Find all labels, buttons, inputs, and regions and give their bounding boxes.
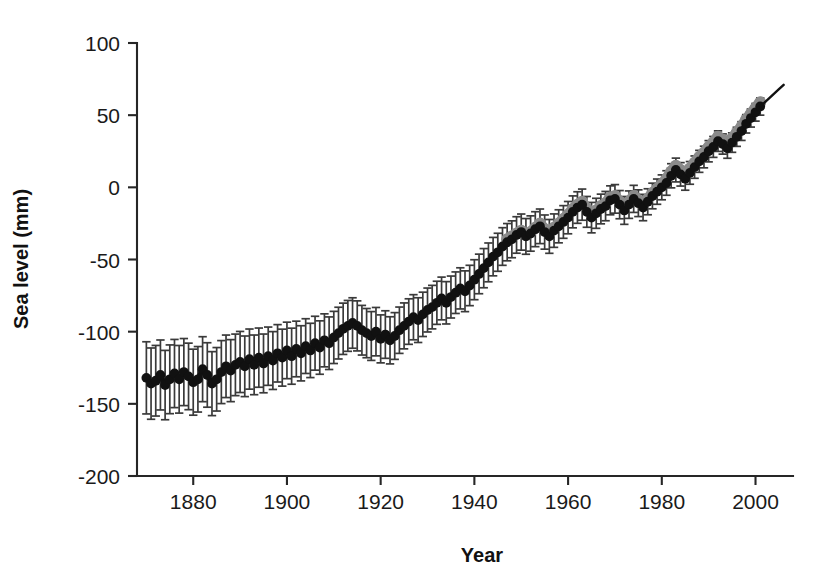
- figure-container: 1880190019201940196019802000 -200-150-10…: [0, 0, 831, 588]
- data-point-tide-gauge: [202, 370, 212, 380]
- y-tick-label-100: 100: [85, 32, 120, 55]
- y-tick-label-50: 50: [97, 104, 120, 127]
- y-tick-label--200: -200: [78, 465, 120, 488]
- y-axis-title: Sea level (mm): [10, 189, 32, 329]
- x-tick-label-2000: 2000: [732, 490, 779, 513]
- x-tick-label-1960: 1960: [545, 490, 592, 513]
- x-tick-label-1920: 1920: [357, 490, 404, 513]
- x-tick-label-1900: 1900: [264, 490, 311, 513]
- x-tick-label-1940: 1940: [451, 490, 498, 513]
- y-tick-label--100: -100: [78, 321, 120, 344]
- data-point-tide-gauge: [156, 370, 166, 380]
- y-tick-label--150: -150: [78, 393, 120, 416]
- x-tick-label-1880: 1880: [170, 490, 217, 513]
- y-tick-label-0: 0: [108, 176, 120, 199]
- data-point-tide-gauge: [193, 374, 203, 384]
- x-axis-title: Year: [461, 544, 503, 566]
- x-tick-label-1980: 1980: [638, 490, 685, 513]
- y-tick-label--50: -50: [90, 249, 120, 272]
- sea-level-chart: 1880190019201940196019802000 -200-150-10…: [0, 0, 831, 588]
